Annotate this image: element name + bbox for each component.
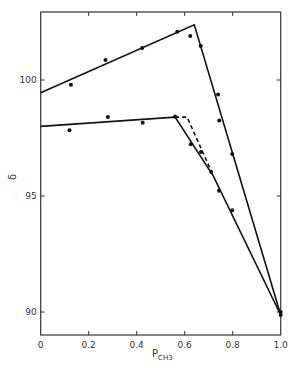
x-tick-label: 0.4 — [130, 340, 145, 350]
y-tick-label: 95 — [25, 191, 36, 201]
x-tick-label: 0 — [38, 340, 44, 350]
series-layer — [41, 25, 281, 315]
data-point — [216, 93, 220, 97]
y-tick-label: 100 — [20, 75, 37, 85]
y-axis-label: δ — [7, 174, 18, 180]
data-point — [141, 121, 145, 125]
data-point — [230, 208, 234, 212]
plot-frame — [41, 12, 281, 335]
fit-line — [41, 117, 281, 315]
y-tick-label: 90 — [25, 307, 37, 317]
x-tick-label: 1.0 — [274, 340, 289, 350]
x-tick-label: 0.8 — [226, 340, 241, 350]
chart: 00.20.40.60.81.09095100 δ PCH3 — [0, 0, 295, 368]
data-point — [175, 30, 179, 34]
x-tick-label: 0.6 — [178, 340, 193, 350]
data-point — [173, 114, 177, 118]
data-point — [217, 189, 221, 193]
data-point — [189, 142, 193, 146]
data-point — [140, 46, 144, 50]
data-point — [230, 152, 234, 156]
data-point — [68, 128, 72, 132]
data-point — [199, 44, 203, 48]
data-points — [68, 30, 283, 317]
data-point — [217, 119, 221, 123]
data-point — [199, 150, 203, 154]
data-point — [104, 58, 108, 62]
data-point — [106, 115, 110, 119]
data-point — [279, 313, 283, 317]
fit-line — [41, 25, 281, 315]
axis-ticks: 00.20.40.60.81.09095100 — [20, 12, 289, 350]
data-point — [209, 170, 213, 174]
x-tick-label: 0.2 — [82, 340, 96, 350]
data-point — [69, 83, 73, 87]
data-point — [188, 34, 192, 38]
x-axis-label: PCH3 — [152, 348, 173, 362]
